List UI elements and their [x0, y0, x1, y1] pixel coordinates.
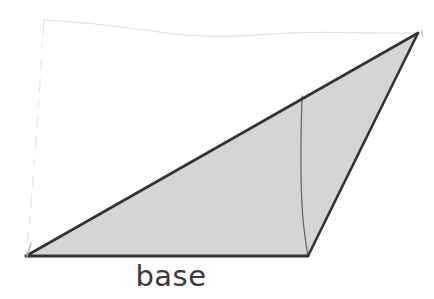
guide-line-horizontal — [44, 20, 418, 36]
base-label: base — [0, 258, 434, 294]
geometry-figure: base — [0, 0, 434, 299]
vertex-tick-apex — [421, 30, 423, 37]
guide-line-vertical — [26, 20, 44, 255]
triangle-diagram-svg — [0, 0, 434, 299]
